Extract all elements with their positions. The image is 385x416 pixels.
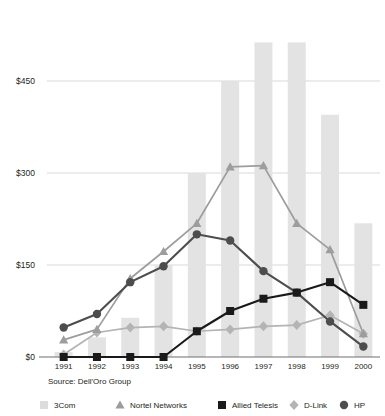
point-hp-1999 [326, 317, 334, 325]
legend-marker-hp [340, 401, 348, 409]
point-allied-telesis-2000 [359, 301, 367, 309]
legend-label-d-link: D-Link [304, 401, 328, 410]
source-text: Source: Dell'Oro Group [48, 377, 131, 386]
legend-label-hp: HP [354, 401, 365, 410]
point-allied-telesis-1992 [93, 353, 101, 361]
x-tick-1996: 1996 [221, 362, 239, 371]
point-allied-telesis-1993 [126, 353, 134, 361]
line-nortel-networks [64, 166, 364, 340]
point-allied-telesis-1997 [259, 295, 267, 303]
x-tick-1993: 1993 [121, 362, 139, 371]
point-hp-1994 [159, 262, 167, 270]
source-note: Source: Dell'Oro Group [48, 377, 131, 386]
point-hp-1996 [226, 236, 234, 244]
line-bar-chart: $450$300$150$0 1991199219931994199519961… [0, 0, 385, 416]
bar-3com-1997 [254, 42, 272, 357]
x-tick-1998: 1998 [288, 362, 306, 371]
point-allied-telesis-1995 [193, 327, 201, 335]
legend-label-nortel-networks: Nortel Networks [130, 401, 187, 410]
bar-3com-1998 [288, 42, 306, 357]
point-allied-telesis-1991 [60, 353, 68, 361]
x-tick-1992: 1992 [88, 362, 106, 371]
line-series-group [64, 166, 364, 357]
legend-label--com: 3Com [54, 401, 76, 410]
x-tick-1995: 1995 [188, 362, 206, 371]
point-hp-1993 [126, 278, 134, 286]
point-hp-2000 [359, 342, 367, 350]
y-tick-0: $0 [26, 352, 36, 362]
legend-label-allied-telesis: Allied Telesis [232, 401, 278, 410]
y-axis-tick-labels: $450$300$150$0 [16, 76, 35, 362]
point-allied-telesis-1994 [160, 353, 168, 361]
y-tick-450: $450 [16, 76, 35, 86]
y-tick-300: $300 [16, 168, 35, 178]
point-hp-1995 [193, 230, 201, 238]
x-tick-1997: 1997 [255, 362, 273, 371]
point-hp-1992 [93, 310, 101, 318]
x-tick-1991: 1991 [55, 362, 73, 371]
x-tick-2000: 2000 [354, 362, 372, 371]
chart-legend: 3ComNortel NetworksAllied TelesisD-LinkH… [40, 400, 365, 410]
x-axis-tick-labels: 1991199219931994199519961997199819992000 [55, 362, 373, 371]
point-allied-telesis-1996 [226, 307, 234, 315]
legend-marker-d-link [289, 400, 298, 410]
point-hp-1997 [259, 267, 267, 275]
y-tick-150: $150 [16, 260, 35, 270]
chart-container: $450$300$150$0 1991199219931994199519961… [0, 0, 385, 416]
point-allied-telesis-1998 [293, 289, 301, 297]
legend-swatch-3com [40, 401, 48, 409]
point-hp-1991 [59, 323, 67, 331]
legend-marker-allied-telesis [218, 401, 226, 409]
legend-marker-nortel-networks [115, 400, 124, 408]
bar-3com-1994 [155, 265, 173, 357]
point-allied-telesis-1999 [326, 278, 334, 286]
x-tick-1999: 1999 [321, 362, 339, 371]
x-tick-1994: 1994 [155, 362, 173, 371]
